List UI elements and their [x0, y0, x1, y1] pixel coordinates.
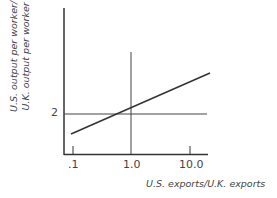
y-axis-label-line2: U.K. output per worker: [20, 1, 32, 112]
y-axis-label: U.S. output per worker/ U.K. output per …: [8, 1, 32, 112]
x-axis-label: U.S. exports/U.K. exports: [146, 178, 265, 189]
data-line: [71, 73, 210, 134]
y-tick-label-2: 2: [51, 106, 58, 119]
x-tick-label-10.0: 10.0: [179, 158, 204, 171]
x-tick-label-1.0: 1.0: [123, 158, 141, 171]
x-tick-label-0.1: .1: [68, 158, 79, 171]
y-axis-label-line1: U.S. output per worker/: [8, 1, 20, 112]
